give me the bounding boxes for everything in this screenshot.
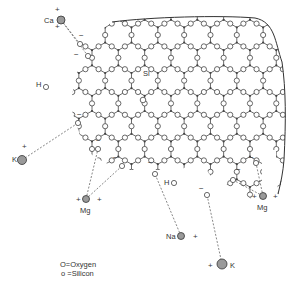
silicon-atom — [223, 156, 225, 158]
silicon-atom — [209, 72, 211, 74]
oxygen-atom — [228, 135, 233, 140]
silicon-atom — [275, 140, 277, 142]
ionic-bond-dashed — [22, 123, 78, 160]
si-o-bond — [197, 0, 210, 5]
oxygen-atom — [149, 0, 154, 3]
oxygen-atom — [109, 44, 114, 49]
silicon-atom — [170, 201, 172, 203]
silicon-atom — [117, 140, 119, 142]
oxygen-atom — [261, 169, 266, 174]
oxygen-atom — [135, 89, 140, 94]
silicon-atom — [65, 4, 67, 6]
si-o-bond — [66, 65, 79, 73]
oxygen-atom — [135, 21, 140, 26]
oxygen-atom — [109, 135, 114, 140]
cation-mg-left — [83, 196, 90, 203]
positive-charge: + — [76, 195, 81, 204]
silicon-atom — [157, 163, 159, 165]
si-o-bond — [210, 202, 223, 210]
oxygen-atom — [208, 78, 213, 83]
oxygen-atom — [50, 78, 55, 83]
oxygen-atom — [70, 89, 75, 94]
oxygen-atom — [129, 78, 134, 83]
silicon-atom — [236, 42, 238, 44]
silicon-atom — [91, 201, 93, 203]
silicon-atom — [144, 201, 146, 203]
oxygen-atom — [261, 78, 266, 83]
oxygen-atom — [135, 203, 140, 208]
silicon-atom — [51, 178, 53, 180]
si-o-bond — [276, 202, 289, 210]
silicon-atom — [78, 72, 80, 74]
oxygen-atom — [175, 89, 180, 94]
silicon-atom — [183, 209, 185, 211]
oxygen-atom — [241, 158, 246, 163]
oxygen-atom — [70, 21, 75, 26]
silicon-atom — [104, 118, 106, 120]
cation-k-bottom — [217, 259, 227, 269]
ionic-bond-dashed — [207, 195, 222, 264]
hydrogen-label: H — [36, 80, 41, 89]
oxygen-atom — [188, 89, 193, 94]
si-o-bond — [184, 202, 197, 210]
silicon-atom — [130, 42, 132, 44]
oxygen-atom — [247, 101, 252, 106]
oxygen-atom — [247, 10, 252, 15]
silicon-atom — [157, 42, 159, 44]
silicon-atom — [183, 163, 185, 165]
silicon-atom — [65, 186, 67, 188]
si-o-bond — [53, 88, 66, 96]
silicon-atom — [91, 4, 93, 6]
oxygen-atom — [56, 44, 61, 49]
oxygen-atom — [182, 78, 187, 83]
silicon-atom — [183, 118, 185, 120]
silicon-atom — [275, 19, 277, 21]
silicon-atom — [117, 95, 119, 97]
oxygen-atom — [70, 158, 75, 163]
silicon-atom — [236, 72, 238, 74]
silicon-atom — [104, 163, 106, 165]
silicon-atom — [275, 156, 277, 158]
nonbridging-oxygen — [95, 146, 100, 151]
silicon-atom — [249, 140, 251, 142]
si-o-bond — [210, 179, 223, 187]
si-o-bond — [53, 179, 66, 187]
oxygen-atom — [175, 203, 180, 208]
oxygen-atom — [214, 21, 219, 26]
silicon-atom — [288, 87, 289, 89]
oxygen-atom — [135, 67, 140, 72]
negative-charge: − — [148, 158, 153, 167]
oxygen-atom — [56, 158, 61, 163]
oxygen-atom — [241, 135, 246, 140]
oxygen-atom — [267, 0, 272, 3]
si-o-bond — [263, 0, 276, 5]
silicon-atom — [249, 201, 251, 203]
oxygen-atom — [188, 181, 193, 186]
si-o-bond — [263, 157, 276, 165]
oxygen-atom — [83, 181, 88, 186]
oxygen-atom — [195, 55, 200, 60]
oxygen-atom — [221, 55, 226, 60]
oxygen-atom — [63, 192, 68, 197]
silicon-atom — [288, 118, 289, 120]
oxygen-atom — [228, 203, 233, 208]
oxygen-atom — [162, 44, 167, 49]
oxygen-atom — [162, 112, 167, 117]
silicon-atom — [209, 118, 211, 120]
si-o-bond — [224, 202, 237, 210]
oxygen-atom — [201, 135, 206, 140]
silicon-atom — [117, 64, 119, 66]
silicon-atom — [223, 186, 225, 188]
silicon-atom — [275, 201, 277, 203]
cation-k-left — [18, 156, 27, 165]
oxygen-atom — [214, 0, 219, 3]
oxygen-atom — [254, 181, 259, 186]
silicon-atom — [117, 201, 119, 203]
oxygen-atom — [201, 158, 206, 163]
oxygen-atom — [261, 32, 266, 37]
oxygen-atom — [50, 169, 55, 174]
oxygen-atom — [182, 169, 187, 174]
si-o-bond — [224, 0, 237, 5]
si-o-bond — [237, 0, 250, 5]
oxygen-atom — [195, 10, 200, 15]
